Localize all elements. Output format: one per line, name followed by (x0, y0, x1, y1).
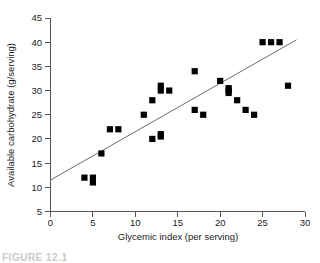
y-tick-label: 45 (31, 12, 42, 23)
data-point (276, 39, 282, 45)
data-point (251, 112, 257, 118)
data-point (81, 175, 87, 181)
y-tick-label: 35 (31, 61, 42, 72)
data-point (285, 83, 291, 89)
data-point (217, 78, 223, 84)
y-tick-label: 20 (31, 133, 42, 144)
figure-container: 51015202530354045 051015202530 Glycemic … (0, 0, 320, 263)
x-axis-label: Glycemic index (per serving) (118, 231, 238, 242)
x-tick-label: 0 (48, 217, 53, 228)
data-point (166, 87, 172, 93)
y-tick-label: 5 (37, 206, 42, 217)
trend-line-group (51, 40, 297, 180)
figure-caption-strip: FIGURE 12.1 (0, 252, 120, 263)
data-point (200, 112, 206, 118)
data-point (158, 131, 164, 137)
y-tick-label: 25 (31, 109, 42, 120)
y-tick-label: 15 (31, 158, 42, 169)
data-point (115, 126, 121, 132)
y-tick-label: 30 (31, 85, 42, 96)
figure-caption-text: FIGURE 12.1 (0, 252, 120, 263)
data-point (234, 97, 240, 103)
data-point (141, 112, 147, 118)
data-point (90, 179, 96, 185)
x-tick-label: 30 (300, 217, 311, 228)
x-axis-ticks: 051015202530 (48, 212, 310, 229)
x-tick-label: 5 (90, 217, 95, 228)
data-point (268, 39, 274, 45)
data-point (226, 85, 232, 91)
axes-group (51, 18, 306, 212)
regression-line (51, 40, 297, 180)
data-point (107, 126, 113, 132)
scatter-plot: 51015202530354045 051015202530 Glycemic … (0, 0, 320, 263)
data-point (192, 107, 198, 113)
y-tick-label: 10 (31, 182, 42, 193)
data-point (149, 136, 155, 142)
y-axis-label: Available carbohydrate (g/serving) (5, 43, 16, 187)
data-point (149, 97, 155, 103)
data-point (158, 83, 164, 89)
y-axis-ticks: 51015202530354045 (31, 12, 50, 217)
x-tick-label: 15 (172, 217, 183, 228)
data-point (192, 68, 198, 74)
data-point (259, 39, 265, 45)
y-tick-label: 40 (31, 37, 42, 48)
x-tick-label: 20 (215, 217, 226, 228)
data-point (243, 107, 249, 113)
x-tick-label: 25 (257, 217, 268, 228)
x-tick-label: 10 (130, 217, 141, 228)
data-point (98, 150, 104, 156)
